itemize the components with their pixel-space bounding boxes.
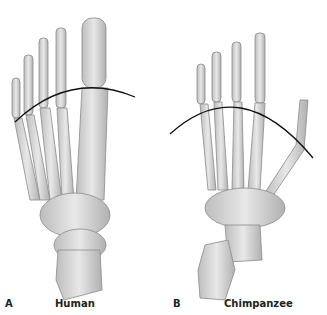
chimpanzee-foot: [197, 33, 308, 300]
panel-a-caption: Human: [55, 298, 95, 309]
foot-comparison-figure: A Human B Chimpanzee: [0, 0, 327, 315]
panel-a-letter: A: [5, 298, 13, 309]
foot-bones-illustration: [0, 0, 327, 315]
panel-b-letter: B: [173, 298, 181, 309]
human-foot: [12, 18, 110, 300]
panel-b-caption: Chimpanzee: [224, 298, 293, 309]
